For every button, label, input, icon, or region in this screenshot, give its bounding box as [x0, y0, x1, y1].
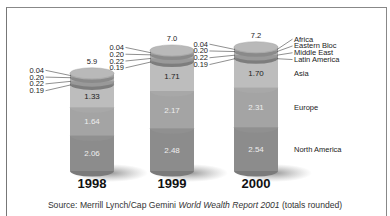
small-value-label: 0.19	[29, 86, 44, 95]
value-label-europe: 1.64	[84, 117, 100, 126]
total-label: 7.0	[167, 34, 177, 43]
leader-line	[277, 53, 293, 55]
legend-europe: Europe	[294, 103, 318, 112]
cylinder-top	[150, 45, 194, 56]
leader-line	[126, 62, 152, 68]
legend-asia: Asia	[294, 69, 309, 78]
source-suffix: (totals rounded)	[280, 200, 343, 210]
year-label-1998: 1998	[78, 176, 107, 191]
value-label-asia: 1.70	[248, 69, 264, 78]
year-label-2000: 2000	[242, 176, 271, 191]
value-label-asia: 1.33	[84, 92, 100, 101]
value-label-europe: 2.31	[248, 103, 264, 112]
value-label-north-america: 2.48	[164, 146, 180, 155]
legend-north-america: North America	[294, 145, 342, 154]
source-prefix: Source: Merrill Lynch/Cap Gemini	[48, 200, 179, 210]
leader-line	[277, 59, 293, 60]
value-label-europe: 2.17	[164, 106, 180, 115]
value-label-asia: 1.71	[164, 72, 180, 81]
legend-latin-america: Latin America	[294, 55, 340, 64]
leader-line	[277, 39, 293, 49]
leader-line	[46, 70, 72, 75]
leader-line	[210, 55, 236, 58]
leader-line	[210, 51, 236, 52]
source-title: World Wealth Report 2001	[178, 200, 279, 210]
small-value-label: 0.19	[109, 63, 124, 72]
leader-line	[210, 59, 236, 65]
leader-line	[46, 77, 72, 78]
leader-line	[126, 47, 152, 52]
stacked-cylinder-chart: 2.061.641.335.90.040.200.220.1919982.482…	[0, 0, 390, 216]
small-value-label: 0.19	[193, 60, 208, 69]
leader-line	[277, 46, 293, 52]
leader-line	[126, 54, 152, 55]
year-label-1999: 1999	[158, 176, 187, 191]
leader-line	[46, 85, 72, 91]
leader-line	[126, 58, 152, 61]
value-label-north-america: 2.06	[84, 149, 100, 158]
cylinder-top	[234, 42, 278, 53]
value-label-north-america: 2.54	[248, 145, 264, 154]
total-label: 5.9	[87, 57, 97, 66]
total-label: 7.2	[251, 31, 261, 40]
source-note: Source: Merrill Lynch/Cap Gemini World W…	[0, 200, 390, 210]
cylinder-top	[70, 68, 114, 79]
leader-line	[210, 44, 236, 49]
leader-line	[46, 81, 72, 84]
